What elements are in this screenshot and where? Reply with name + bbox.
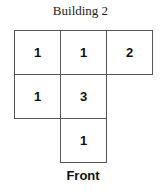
grid-cell-r2c1: 1	[14, 74, 61, 119]
grid-cell-r1c2: 1	[60, 30, 107, 75]
grid-cell-r2c2: 3	[60, 74, 107, 119]
diagram-title: Building 2	[0, 3, 161, 19]
grid-cell-r1c1: 1	[14, 30, 61, 75]
front-label: Front	[60, 168, 106, 183]
grid-cell-r1c3: 2	[106, 30, 153, 75]
grid-cell-r3c2: 1	[60, 118, 107, 163]
